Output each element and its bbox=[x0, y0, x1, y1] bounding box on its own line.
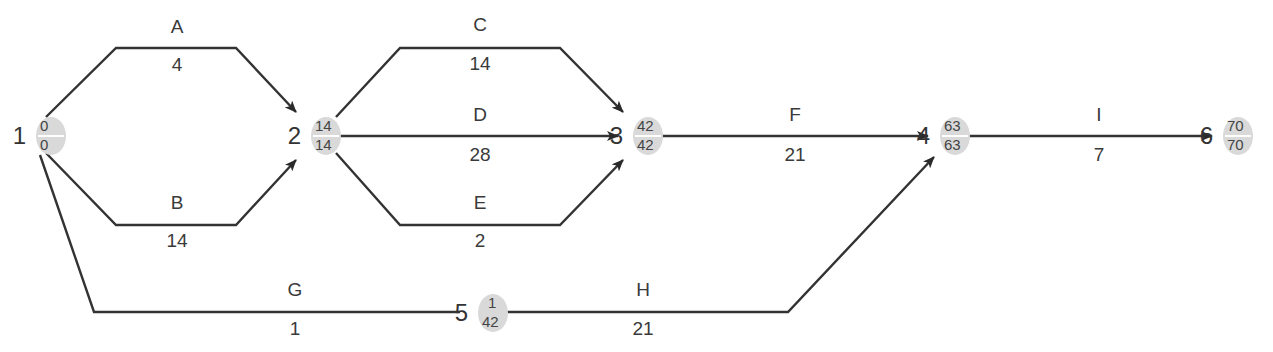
node-4-early-time: 63 bbox=[944, 117, 961, 134]
edge-f-activity: F bbox=[789, 104, 801, 126]
edge-g-duration: 1 bbox=[290, 318, 301, 340]
edge-c-activity: C bbox=[473, 14, 487, 36]
node-4-late-time: 63 bbox=[944, 136, 961, 153]
node-1-early-time: 0 bbox=[40, 117, 48, 134]
edge-a-duration: 4 bbox=[172, 54, 183, 76]
edge-d-duration: 28 bbox=[469, 144, 490, 166]
node-3-early-time: 42 bbox=[637, 117, 654, 134]
node-6-late-time: 70 bbox=[1227, 136, 1244, 153]
node-2-late-time: 14 bbox=[315, 136, 332, 153]
node-5-number: 5 bbox=[455, 299, 468, 327]
edge-b-duration: 14 bbox=[166, 230, 187, 252]
edge-e-activity: E bbox=[474, 192, 487, 214]
node-6-early-time: 70 bbox=[1227, 117, 1244, 134]
node-3-late-time: 42 bbox=[637, 136, 654, 153]
edge-f-duration: 21 bbox=[784, 144, 805, 166]
node-6-number: 6 bbox=[1200, 122, 1213, 150]
node-5-early-time: 1 bbox=[488, 294, 496, 311]
node-2-number: 2 bbox=[288, 122, 301, 150]
edge-e-duration: 2 bbox=[475, 230, 486, 252]
edge-h-duration: 21 bbox=[632, 318, 653, 340]
edge-a-activity: A bbox=[171, 16, 184, 38]
node-1-number: 1 bbox=[13, 122, 26, 150]
edge-b-activity: B bbox=[171, 192, 184, 214]
node-3-number: 3 bbox=[610, 122, 623, 150]
edge-b bbox=[46, 153, 296, 225]
edge-i-activity: I bbox=[1096, 104, 1101, 126]
edge-g-activity: G bbox=[288, 279, 303, 301]
edge-c-duration: 14 bbox=[469, 53, 490, 75]
node-5-late-time: 42 bbox=[482, 313, 499, 330]
node-1-late-time: 0 bbox=[40, 136, 48, 153]
edge-d-activity: D bbox=[473, 104, 487, 126]
edge-h-activity: H bbox=[636, 279, 650, 301]
edge-i-duration: 7 bbox=[1094, 144, 1105, 166]
edge-h bbox=[507, 157, 934, 312]
node-2-early-time: 14 bbox=[315, 117, 332, 134]
node-4-number: 4 bbox=[917, 122, 930, 150]
edge-g bbox=[40, 155, 460, 312]
